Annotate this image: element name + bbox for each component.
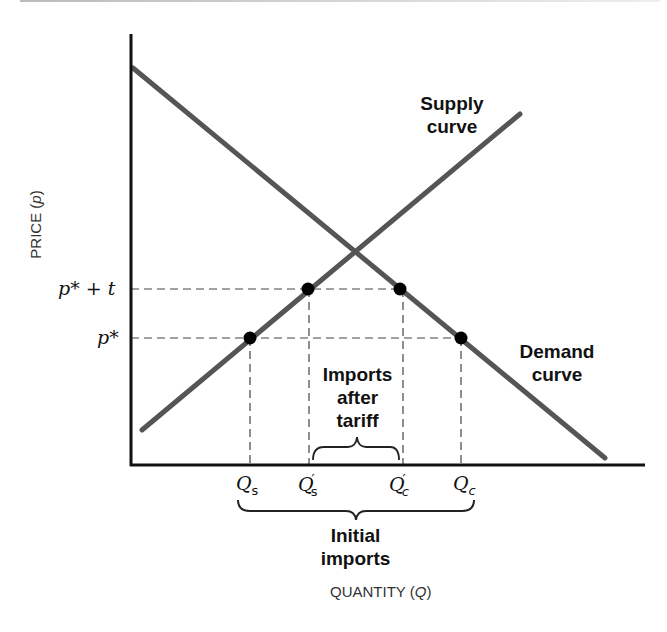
y-tick-p-star: p* [97, 326, 119, 348]
supply-curve-label: Supply curve [412, 92, 492, 138]
x-tick-qc-prime: Q′c [389, 472, 409, 499]
demand-label-line2: curve [512, 363, 602, 386]
x-tick-qc-letter: Q [453, 472, 469, 494]
initial-imports-brace [238, 500, 474, 520]
point-demand-p-star [455, 332, 468, 345]
y-axis-title: PRICE (p) [27, 180, 44, 270]
point-supply-p-star [244, 332, 257, 345]
imports-after-line2: after [310, 386, 405, 409]
x-tick-qs-prime: Q′s [298, 472, 318, 499]
x-tick-qc-prime-sub: c [402, 484, 409, 499]
y-axis-title-text: PRICE ( [27, 204, 44, 259]
x-axis-title-var: Q [415, 583, 427, 600]
y-tick-p-star-t: p* + t [58, 277, 115, 299]
supply-label-line2: curve [412, 115, 492, 138]
y-axis-title-var: p [27, 195, 44, 203]
x-axis-title-text: QUANTITY ( [330, 583, 415, 600]
initial-imports-line2: imports [308, 547, 403, 570]
imports-after-line1: Imports [310, 363, 405, 386]
x-tick-qs: Qs [236, 472, 258, 498]
x-axis-title: QUANTITY (Q) [330, 583, 431, 600]
imports-after-tariff-label: Imports after tariff [310, 363, 405, 432]
point-demand-p-star-t [394, 283, 407, 296]
point-supply-p-star-t [302, 283, 315, 296]
x-tick-qc: Qc [453, 472, 476, 498]
initial-imports-label: Initial imports [308, 524, 403, 570]
initial-imports-line1: Initial [308, 524, 403, 547]
x-tick-qs-letter: Q [236, 472, 252, 494]
imports-after-line3: tariff [310, 409, 405, 432]
demand-curve-label: Demand curve [512, 340, 602, 386]
demand-label-line1: Demand [512, 340, 602, 363]
guide-lines [131, 289, 461, 465]
x-axis-title-close: ) [426, 583, 431, 600]
imports-after-tariff-brace [313, 437, 399, 460]
y-axis-title-close: ) [27, 190, 44, 195]
x-tick-qc-sub: c [469, 483, 476, 498]
supply-label-line1: Supply [412, 92, 492, 115]
x-tick-qs-prime-sub: s [311, 484, 318, 499]
x-tick-qs-sub: s [252, 483, 259, 498]
